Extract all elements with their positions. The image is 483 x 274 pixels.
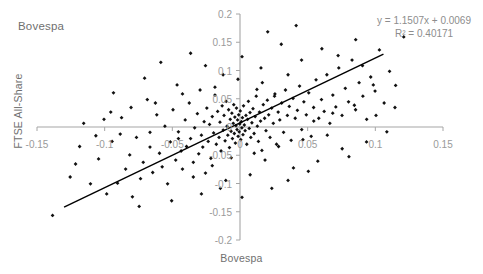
scatter-point bbox=[181, 167, 185, 171]
scatter-point bbox=[89, 182, 93, 186]
scatter-point bbox=[200, 133, 204, 137]
scatter-point bbox=[183, 118, 187, 122]
scatter-point bbox=[97, 157, 101, 161]
scatter-point bbox=[236, 118, 240, 122]
scatter-point bbox=[238, 109, 242, 113]
scatter-point bbox=[264, 129, 268, 133]
scatter-point bbox=[232, 132, 236, 136]
scatter-point bbox=[343, 86, 347, 90]
scatter-point bbox=[78, 145, 82, 149]
scatter-point bbox=[171, 108, 175, 112]
scatter-point bbox=[382, 101, 386, 105]
scatter-point bbox=[388, 69, 392, 73]
scatter-point bbox=[312, 106, 316, 110]
scatter-point bbox=[325, 133, 329, 137]
scatter-point bbox=[250, 121, 254, 125]
scatter-point bbox=[245, 142, 249, 146]
scatter-point bbox=[233, 115, 237, 119]
scatter-point bbox=[347, 100, 351, 104]
scatter-point bbox=[248, 111, 252, 115]
scatter-point bbox=[109, 110, 113, 114]
scatter-point bbox=[265, 98, 269, 102]
scatter-point bbox=[174, 158, 178, 162]
scatter-point bbox=[369, 75, 373, 79]
y-tick-label: 0.15 bbox=[202, 37, 232, 48]
scatter-point bbox=[124, 167, 128, 171]
scatter-point bbox=[160, 165, 164, 169]
scatter-point bbox=[204, 171, 208, 175]
scatter-point bbox=[320, 47, 324, 51]
scatter-point bbox=[307, 91, 311, 95]
scatter-point bbox=[244, 114, 248, 118]
scatter-point bbox=[145, 98, 149, 102]
scatter-point bbox=[189, 137, 193, 141]
scatter-point bbox=[257, 140, 261, 144]
scatter-point bbox=[286, 73, 290, 77]
scatter-point bbox=[112, 91, 116, 95]
scatter-point bbox=[365, 117, 369, 121]
scatter-point bbox=[241, 116, 245, 120]
y-tick-label: -0.1 bbox=[202, 178, 232, 189]
scatter-point bbox=[222, 114, 226, 118]
scatter-point bbox=[213, 85, 217, 89]
scatter-point bbox=[352, 103, 356, 107]
scatter-point bbox=[223, 139, 227, 143]
scatter-point bbox=[373, 89, 377, 93]
y-tick-label: 0.2 bbox=[202, 9, 232, 20]
scatter-point bbox=[289, 138, 293, 142]
scatter-point bbox=[263, 116, 267, 120]
scatter-point bbox=[200, 192, 204, 196]
scatter-point bbox=[270, 186, 274, 190]
scatter-point bbox=[217, 136, 221, 140]
scatter-point bbox=[393, 106, 397, 110]
scatter-point bbox=[298, 84, 302, 88]
scatter-point bbox=[259, 66, 263, 70]
plot-area bbox=[0, 0, 483, 274]
scatter-point bbox=[385, 130, 389, 134]
scatter-point bbox=[68, 175, 72, 179]
scatter-point bbox=[336, 54, 340, 58]
scatter-point bbox=[154, 101, 158, 105]
scatter-point bbox=[286, 178, 290, 182]
scatter-point bbox=[148, 130, 152, 134]
scatter-point bbox=[82, 121, 86, 125]
scatter-point bbox=[374, 114, 378, 118]
scatter-point bbox=[216, 110, 220, 114]
scatter-point bbox=[371, 83, 375, 87]
x-tick-label: 0.15 bbox=[433, 139, 452, 150]
y-tick-label: 0.1 bbox=[202, 65, 232, 76]
plot-svg bbox=[0, 0, 483, 274]
scatter-point bbox=[214, 142, 218, 146]
scatter-point bbox=[248, 173, 252, 177]
scatter-point bbox=[197, 152, 201, 156]
scatter-point bbox=[317, 116, 321, 120]
scatter-point bbox=[314, 78, 318, 82]
scatter-point bbox=[251, 107, 255, 111]
scatter-point bbox=[143, 76, 147, 80]
scatter-point bbox=[302, 100, 306, 104]
scatter-point bbox=[232, 103, 236, 107]
scatter-point bbox=[347, 155, 351, 159]
scatter-point bbox=[236, 134, 240, 138]
scatter-point bbox=[242, 123, 246, 127]
scatter-point bbox=[354, 38, 358, 42]
scatter-point bbox=[235, 106, 239, 110]
scatter-point bbox=[155, 113, 159, 117]
scatter-point bbox=[94, 134, 98, 138]
scatter-point bbox=[120, 116, 124, 120]
scatter-point bbox=[300, 58, 304, 62]
scatter-point bbox=[259, 119, 263, 123]
scatter-point bbox=[377, 48, 381, 52]
scatter-point bbox=[285, 114, 289, 118]
scatter-point bbox=[322, 110, 326, 114]
scatter-point bbox=[205, 106, 209, 110]
scatter-point bbox=[128, 153, 132, 157]
scatter-point bbox=[260, 149, 264, 153]
scatter-point bbox=[282, 130, 286, 134]
scatter-point bbox=[295, 108, 299, 112]
scatter-point bbox=[230, 111, 234, 115]
scatter-point bbox=[177, 130, 181, 134]
scatter-point bbox=[334, 105, 338, 109]
scatter-point bbox=[361, 94, 365, 98]
scatter-point bbox=[227, 108, 231, 112]
